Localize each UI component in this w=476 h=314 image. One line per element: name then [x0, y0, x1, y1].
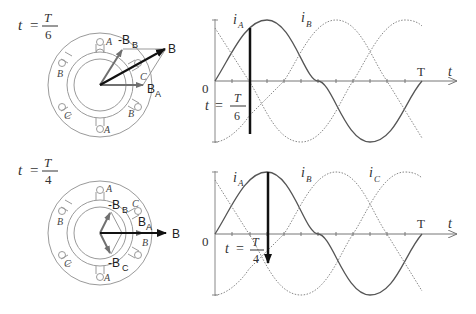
svg-text:B: B [147, 82, 155, 96]
svg-text:=: = [215, 98, 223, 113]
svg-text:t: t [448, 216, 453, 231]
svg-text:C: C [64, 110, 71, 121]
time-label-top: t = T 6 [18, 10, 58, 42]
waveform-labels-bottom: i A i B i C 0 T t t = T 4 [202, 165, 453, 266]
rotating-field-diagram: t = T 6 A C [0, 0, 476, 314]
svg-text:4: 4 [45, 172, 52, 187]
svg-text:C: C [132, 198, 139, 209]
svg-text:B: B [57, 216, 63, 227]
svg-text:B: B [122, 205, 128, 215]
svg-text:t: t [18, 162, 23, 178]
svg-text:A: A [103, 124, 111, 135]
svg-text:A: A [105, 183, 113, 194]
svg-text:=: = [236, 241, 244, 256]
svg-text:A: A [237, 20, 244, 30]
svg-text:4: 4 [253, 252, 259, 266]
svg-text:B: B [57, 68, 63, 79]
svg-text:T: T [417, 64, 425, 79]
svg-text:A: A [237, 178, 244, 188]
svg-text:B: B [306, 174, 312, 184]
svg-text:=: = [30, 162, 38, 178]
svg-text:B: B [132, 40, 138, 50]
svg-text:A: A [155, 89, 161, 99]
svg-text:C: C [374, 174, 381, 184]
svg-text:T: T [44, 155, 52, 170]
svg-text:-B: -B [108, 256, 120, 270]
svg-text:B: B [306, 19, 312, 29]
svg-text:t: t [205, 98, 210, 113]
svg-text:6: 6 [234, 109, 240, 123]
svg-text:i: i [301, 165, 305, 180]
panel-t-over-6: t = T 6 A C [18, 10, 457, 143]
svg-text:B: B [138, 215, 146, 229]
svg-text:i: i [369, 165, 373, 180]
panel-t-over-4: t = T 4 A C B A C [18, 155, 457, 296]
waveform-bottom [212, 171, 457, 296]
svg-text:t: t [18, 17, 23, 33]
svg-text:B: B [142, 237, 148, 248]
svg-text:T: T [234, 91, 242, 105]
svg-text:t: t [225, 241, 230, 256]
svg-text:0: 0 [202, 234, 209, 249]
svg-text:-B: -B [108, 198, 120, 212]
svg-text:T: T [417, 216, 425, 231]
vector-labels-bottom: B B A -B B -B C [108, 198, 180, 273]
svg-text:=: = [30, 17, 38, 33]
svg-text:0: 0 [202, 81, 209, 96]
svg-text:T: T [252, 235, 260, 249]
svg-text:T: T [44, 10, 52, 25]
svg-text:B: B [128, 108, 134, 119]
svg-text:B: B [172, 227, 180, 241]
svg-text:-B: -B [118, 33, 130, 47]
svg-text:i: i [233, 170, 237, 185]
svg-text:A: A [105, 36, 113, 47]
time-label-bottom: t = T 4 [18, 155, 58, 187]
svg-text:i: i [301, 10, 305, 25]
svg-text:6: 6 [45, 27, 52, 42]
svg-text:A: A [103, 272, 111, 283]
svg-text:A: A [146, 222, 152, 232]
waveform-top [212, 19, 457, 143]
svg-text:i: i [233, 12, 237, 27]
svg-text:t: t [448, 64, 453, 79]
svg-text:B: B [168, 42, 176, 56]
svg-text:C: C [122, 263, 129, 273]
svg-text:C: C [64, 258, 71, 269]
